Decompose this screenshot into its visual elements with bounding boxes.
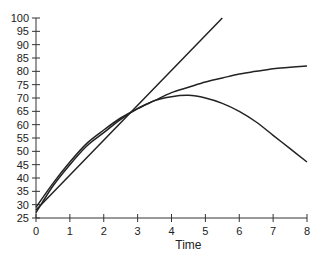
x-tick-label: 5	[202, 225, 208, 237]
y-tick-label: 80	[17, 65, 29, 77]
x-tick-label: 3	[135, 225, 141, 237]
x-tick-label: 2	[101, 225, 107, 237]
y-tick-label: 50	[17, 145, 29, 157]
x-tick-label: 1	[67, 225, 73, 237]
y-tick-label: 30	[17, 199, 29, 211]
y-tick-label: 40	[17, 172, 29, 184]
y-tick-label: 25	[17, 212, 29, 224]
x-tick-label: 0	[33, 225, 39, 237]
series-line-1	[36, 66, 307, 213]
y-tick-label: 65	[17, 105, 29, 117]
y-tick-label: 90	[17, 39, 29, 51]
x-tick-label: 6	[236, 225, 242, 237]
y-tick-label: 95	[17, 25, 29, 37]
y-tick-label: 75	[17, 79, 29, 91]
y-tick-label: 45	[17, 159, 29, 171]
x-tick-label: 8	[304, 225, 310, 237]
x-tick-label: 4	[168, 225, 174, 237]
y-tick-label: 35	[17, 185, 29, 197]
y-tick-label: 60	[17, 119, 29, 131]
series-line-2	[36, 95, 307, 207]
y-tick-label: 100	[11, 12, 29, 24]
x-tick-label: 7	[270, 225, 276, 237]
line-chart: 2530354045505560657075808590951000123456…	[0, 0, 325, 262]
y-tick-label: 55	[17, 132, 29, 144]
x-axis-label: Time	[175, 238, 202, 252]
y-tick-label: 70	[17, 92, 29, 104]
y-tick-label: 85	[17, 52, 29, 64]
